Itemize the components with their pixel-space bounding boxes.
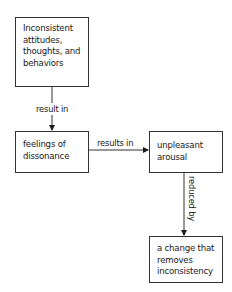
edge-label-result-in: result in [36,103,68,115]
node-line: attitudes, [23,35,83,47]
node-change-removes-inconsistency: a change that removes inconsistency [149,236,223,283]
node-line: inconsistency [157,266,217,278]
node-unpleasant-arousal: unpleasant arousal [149,131,223,173]
edge-label-reduced-by: reduced by [187,176,197,221]
node-line: dissonance [23,151,83,163]
node-line: behaviors [23,58,83,70]
node-line: arousal [157,152,217,164]
node-line: feelings of [23,139,83,151]
node-feelings-of-dissonance: feelings of dissonance [15,131,89,173]
node-line: Inconsistent [23,23,83,35]
node-line: removes [157,255,217,267]
node-line: unpleasant [157,140,217,152]
edge-label-results-in: results in [97,138,133,148]
node-inconsistent-attitudes: Inconsistent attitudes, thoughts, and be… [15,17,89,87]
node-line: a change that [157,243,217,255]
node-line: thoughts, and [23,46,83,58]
